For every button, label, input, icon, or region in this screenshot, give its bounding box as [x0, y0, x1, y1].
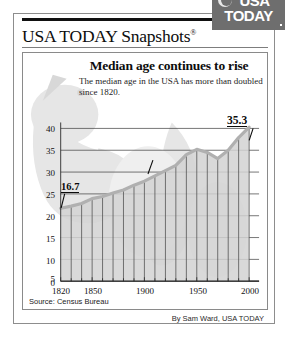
x-axis-label-1900: 1900 [131, 287, 159, 296]
masthead-title: USA TODAY Snapshots® [22, 22, 196, 47]
masthead-underline [22, 47, 268, 48]
y-axis-label-30: 30 [39, 169, 55, 178]
y-axis-label-25: 25 [39, 191, 55, 200]
x-axis-label-2000: 2000 [236, 287, 264, 296]
usa-today-logo: USA TODAY [212, 0, 285, 30]
logo-text-today: TODAY [212, 8, 285, 23]
x-axis-label-1850: 1850 [79, 287, 107, 296]
logo-period-icon [280, 24, 282, 26]
y-axis-label-20: 20 [39, 213, 55, 222]
data-callout-start: 16.7 [61, 181, 79, 193]
y-axis-label-35: 35 [39, 147, 55, 156]
y-axis-label-40: 40 [39, 125, 55, 134]
y-axis-label-15: 15 [39, 235, 55, 244]
source-note: Source: Census Bureau [29, 297, 109, 306]
masthead-rule [22, 18, 240, 21]
credit-line: By Sam Ward, USA TODAY [172, 314, 264, 323]
y-axis-label-10: 10 [39, 257, 55, 266]
infographic-card: USA TODAY Snapshots® [13, 13, 275, 324]
x-axis-label-1820: 1820 [47, 287, 75, 296]
masthead-title-text: USA TODAY Snapshots [22, 26, 190, 46]
data-callout-end: 35.3 [227, 115, 247, 127]
chart-panel: Median age continues to rise The median … [22, 52, 268, 310]
snapshot-infographic: USA TODAY Snapshots® [0, 0, 291, 341]
registered-trademark-icon: ® [190, 28, 196, 37]
x-axis-label-1950: 1950 [184, 287, 212, 296]
plot-area [23, 53, 267, 309]
